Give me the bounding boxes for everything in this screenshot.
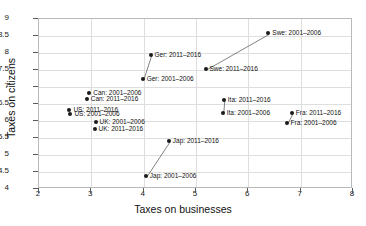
y-axis-title: Taxes on citizens bbox=[5, 43, 17, 153]
y-tick-mark bbox=[33, 120, 38, 121]
x-tick-mark bbox=[143, 188, 144, 193]
y-tick-mark bbox=[33, 69, 38, 70]
x-tick-mark bbox=[247, 188, 248, 193]
y-tick-label: 8.5 bbox=[0, 31, 9, 39]
x-tick-mark bbox=[352, 188, 353, 193]
y-tick-label: 4 bbox=[0, 184, 9, 192]
connector-line-ita bbox=[224, 101, 225, 115]
connector-lines bbox=[39, 19, 353, 189]
connector-line-ger bbox=[144, 56, 152, 80]
y-tick-mark bbox=[33, 171, 38, 172]
x-tick-mark bbox=[195, 188, 196, 193]
x-tick-mark bbox=[90, 188, 91, 193]
connector-line-fra bbox=[288, 114, 293, 124]
y-tick-label: 4.5 bbox=[0, 167, 9, 175]
plot-area bbox=[38, 18, 352, 188]
x-tick-mark bbox=[300, 188, 301, 193]
y-tick-mark bbox=[33, 103, 38, 104]
y-tick-mark bbox=[33, 154, 38, 155]
scatter-chart: 44.555.566.577.588.59 2345678 Swe: 2001–… bbox=[0, 0, 366, 226]
y-tick-mark bbox=[33, 52, 38, 53]
y-tick-mark bbox=[33, 18, 38, 19]
y-tick-label: 9 bbox=[0, 14, 9, 22]
connector-line-swe bbox=[207, 34, 270, 70]
x-tick-mark bbox=[38, 188, 39, 193]
connector-line-jap bbox=[147, 142, 170, 177]
y-tick-mark bbox=[33, 86, 38, 87]
y-tick-mark bbox=[33, 35, 38, 36]
y-tick-mark bbox=[33, 137, 38, 138]
x-axis-title: Taxes on businesses bbox=[0, 203, 366, 215]
